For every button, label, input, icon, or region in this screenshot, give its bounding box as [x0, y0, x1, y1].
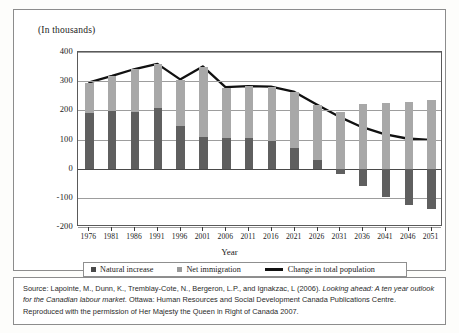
y-axis-tick-label-400: 400	[43, 46, 73, 56]
bar-segment-net-immigration	[336, 112, 345, 169]
natural-increase-swatch-icon	[91, 267, 96, 272]
bar-segment-net-immigration	[108, 76, 117, 110]
bar-segment-natural-increase	[176, 126, 185, 169]
bar-2051	[427, 52, 436, 227]
y-axis-tick-label-0: 0	[43, 163, 73, 173]
bar-2016	[268, 52, 277, 227]
bar-segment-natural-increase	[405, 169, 414, 205]
legend-label-change-in-total-population: Change in total population	[288, 265, 375, 274]
x-axis-label-2051: 2051	[418, 232, 444, 241]
bar-segment-net-immigration	[405, 102, 414, 169]
x-axis-tick-2046	[408, 227, 409, 231]
legend-item-natural-increase: Natural increase	[91, 265, 153, 274]
bar-segment-natural-increase	[154, 108, 163, 168]
bar-2001	[199, 52, 208, 227]
bar-segment-net-immigration	[427, 100, 436, 168]
bar-2036	[359, 52, 368, 227]
bar-segment-net-immigration	[222, 88, 231, 139]
x-axis-tick-1981	[111, 227, 112, 231]
chart-units-label: (In thousands)	[38, 25, 95, 35]
x-axis-tick-1991	[157, 227, 158, 231]
bar-segment-net-immigration	[131, 69, 140, 112]
bar-2011	[245, 52, 254, 227]
x-axis-title: Year	[14, 247, 445, 257]
bar-1976	[85, 52, 94, 227]
x-axis-tick-2001	[202, 227, 203, 231]
bar-segment-natural-increase	[427, 169, 436, 210]
bar-segment-net-immigration	[154, 64, 163, 108]
y-axis-tick-label--200: -200	[43, 221, 73, 231]
bar-segment-net-immigration	[245, 86, 254, 138]
source-text-part-1: Source: Lapointe, M., Dunn, K., Tremblay…	[23, 284, 322, 293]
bar-segment-natural-increase	[222, 138, 231, 168]
x-axis-tick-2051	[431, 227, 432, 231]
bar-1986	[131, 52, 140, 227]
bar-2021	[290, 52, 299, 227]
x-axis-tick-2021	[294, 227, 295, 231]
bar-2026	[313, 52, 322, 227]
y-axis-tick-label-300: 300	[43, 75, 73, 85]
y-axis-tick-label-100: 100	[43, 134, 73, 144]
bar-segment-net-immigration	[313, 105, 322, 160]
legend-item-net-immigration: Net immigration	[177, 265, 240, 274]
x-axis-tick-2011	[248, 227, 249, 231]
chart-frame: (In thousands) 4003002001000-100-200 197…	[13, 9, 446, 271]
bar-2046	[405, 52, 414, 227]
x-axis-tick-2006	[225, 227, 226, 231]
x-axis-tick-2031	[339, 227, 340, 231]
plot-area	[77, 51, 442, 226]
bar-segment-natural-increase	[290, 148, 299, 168]
bar-segment-natural-increase	[359, 169, 368, 187]
y-axis: 4003002001000-100-200	[40, 51, 73, 226]
bar-2006	[222, 52, 231, 227]
x-axis-tick-2036	[362, 227, 363, 231]
chart-page: (In thousands) 4003002001000-100-200 197…	[0, 0, 459, 333]
x-axis-labels: 1976198119861991199620012006201120162021…	[73, 232, 446, 244]
bar-1981	[108, 52, 117, 227]
y-axis-tick-label-200: 200	[43, 104, 73, 114]
bar-1996	[176, 52, 185, 227]
bar-1991	[154, 52, 163, 227]
change-in-total-population-line-icon	[265, 268, 283, 271]
line-path-change-in-total-population	[89, 64, 429, 140]
source-citation: Source: Lapointe, M., Dunn, K., Tremblay…	[13, 277, 446, 325]
bar-segment-net-immigration	[290, 92, 299, 148]
net-immigration-swatch-icon	[177, 267, 182, 272]
legend-label-natural-increase: Natural increase	[100, 265, 153, 274]
x-axis-tick-2026	[317, 227, 318, 231]
bar-2041	[382, 52, 391, 227]
y-axis-tick-label--100: -100	[43, 192, 73, 202]
bar-segment-natural-increase	[131, 112, 140, 169]
bar-segment-natural-increase	[199, 137, 208, 169]
bar-segment-natural-increase	[85, 113, 94, 169]
x-axis-tick-1986	[134, 227, 135, 231]
bar-2031	[336, 52, 345, 227]
x-axis-tick-2016	[271, 227, 272, 231]
legend-item-change-in-total-population: Change in total population	[265, 265, 375, 274]
chart-legend: Natural increase Net immigration Change …	[83, 262, 407, 277]
bar-segment-natural-increase	[108, 111, 117, 169]
bar-segment-net-immigration	[85, 83, 94, 113]
x-axis-tick-2041	[385, 227, 386, 231]
bar-segment-net-immigration	[268, 87, 277, 141]
bar-segment-natural-increase	[313, 160, 322, 169]
bar-segment-net-immigration	[176, 80, 185, 126]
bar-segment-net-immigration	[199, 67, 208, 137]
x-axis-tick-1976	[88, 227, 89, 231]
bar-segment-natural-increase	[336, 169, 345, 175]
bar-segment-natural-increase	[382, 169, 391, 197]
bar-segment-net-immigration	[359, 104, 368, 169]
bar-segment-natural-increase	[245, 138, 254, 168]
bar-segment-natural-increase	[268, 141, 277, 169]
x-axis-tick-1996	[180, 227, 181, 231]
legend-label-net-immigration: Net immigration	[186, 265, 240, 274]
bar-segment-net-immigration	[382, 103, 391, 169]
